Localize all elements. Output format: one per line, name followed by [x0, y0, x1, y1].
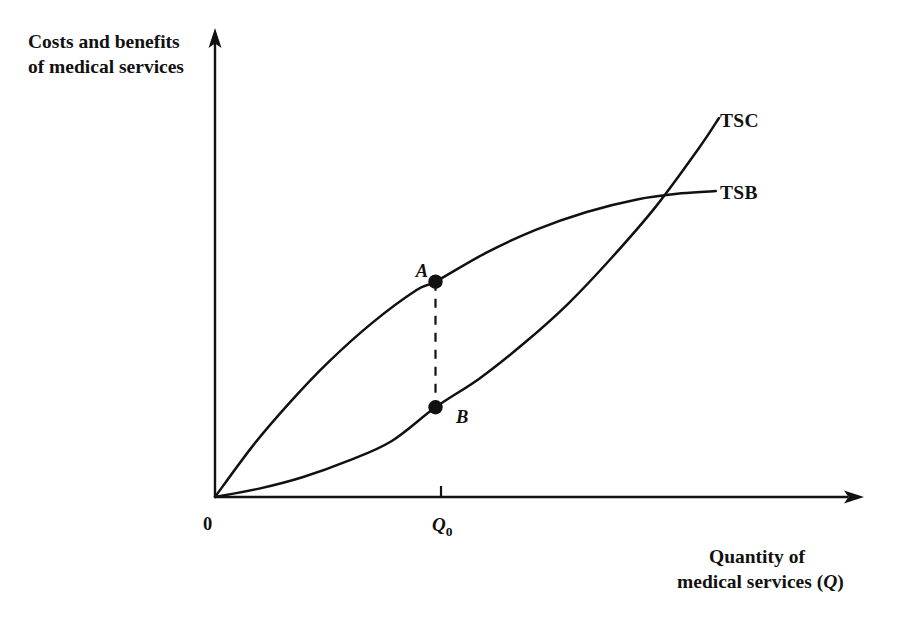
curve-tsc: [215, 118, 719, 497]
x-axis-title-line1: Quantity of: [709, 546, 805, 567]
economics-diagram: TSC TSB A B 0 Q0 Costs and benefits of m…: [0, 0, 902, 617]
y-axis-title-line2: of medical services: [28, 56, 184, 77]
curve-labels-group: TSC TSB: [720, 110, 759, 203]
curve-label-tsb: TSB: [720, 182, 758, 203]
curve-label-tsc: TSC: [720, 110, 759, 131]
point-marker-b: [428, 400, 442, 414]
x-axis-title-variable: Q: [823, 571, 837, 592]
point-label-b: B: [455, 407, 468, 427]
point-label-a: A: [415, 261, 428, 281]
origin-label: 0: [203, 514, 212, 534]
x-axis-title-line2: medical services (Q): [677, 571, 844, 593]
curves-group: [215, 118, 719, 497]
figure-root: TSC TSB A B 0 Q0 Costs and benefits of m…: [0, 0, 902, 617]
x-axis-title-prefix: medical services (: [677, 571, 823, 593]
q0-variable: Q: [432, 514, 446, 535]
point-marker-a: [428, 275, 442, 289]
markers-group: [428, 275, 442, 415]
x-axis-title-suffix: ): [837, 571, 844, 593]
y-axis-title-line1: Costs and benefits: [28, 31, 180, 52]
q0-subscript: 0: [446, 524, 453, 539]
axes-group: [209, 28, 865, 504]
tick-labels-group: 0 Q0: [203, 514, 453, 539]
q0-label: Q0: [432, 514, 453, 539]
curve-tsb: [215, 191, 716, 497]
